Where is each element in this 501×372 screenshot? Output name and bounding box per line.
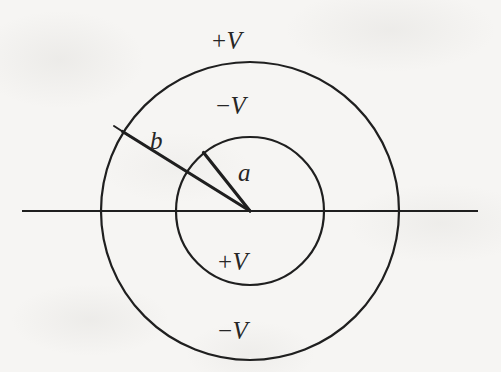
label-outer-bottom-symbol: V [233,317,249,344]
label-outer-radius-b: b [150,128,163,153]
label-outer-bottom-sign: − [218,317,233,344]
label-inner-bottom-symbol: V [233,248,249,275]
radius-b-line [123,132,251,212]
label-inner-top-potential: −V [216,93,246,118]
label-inner-radius-a: a [238,160,251,185]
label-outer-top-potential: +V [212,28,242,53]
label-inner-bottom-sign: + [218,248,233,275]
label-outer-bottom-potential: −V [218,318,248,343]
label-outer-top-symbol: V [227,27,243,54]
label-outer-top-sign: + [212,27,227,54]
label-inner-top-sign: − [216,92,231,119]
figure-canvas: +V −V b a +V −V [0,0,501,372]
label-inner-bottom-potential: +V [218,249,248,274]
concentric-circles-diagram [0,0,501,372]
label-inner-top-symbol: V [231,92,247,119]
